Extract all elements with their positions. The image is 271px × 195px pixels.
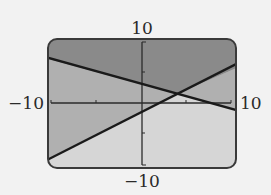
y-max-label: 10 (131, 18, 153, 38)
inequality-graph: 10 −10 −10 10 (0, 0, 271, 195)
x-min-label: −10 (8, 93, 44, 113)
y-min-label: −10 (124, 171, 160, 191)
x-max-label: 10 (240, 93, 262, 113)
plot-area (40, 30, 250, 180)
